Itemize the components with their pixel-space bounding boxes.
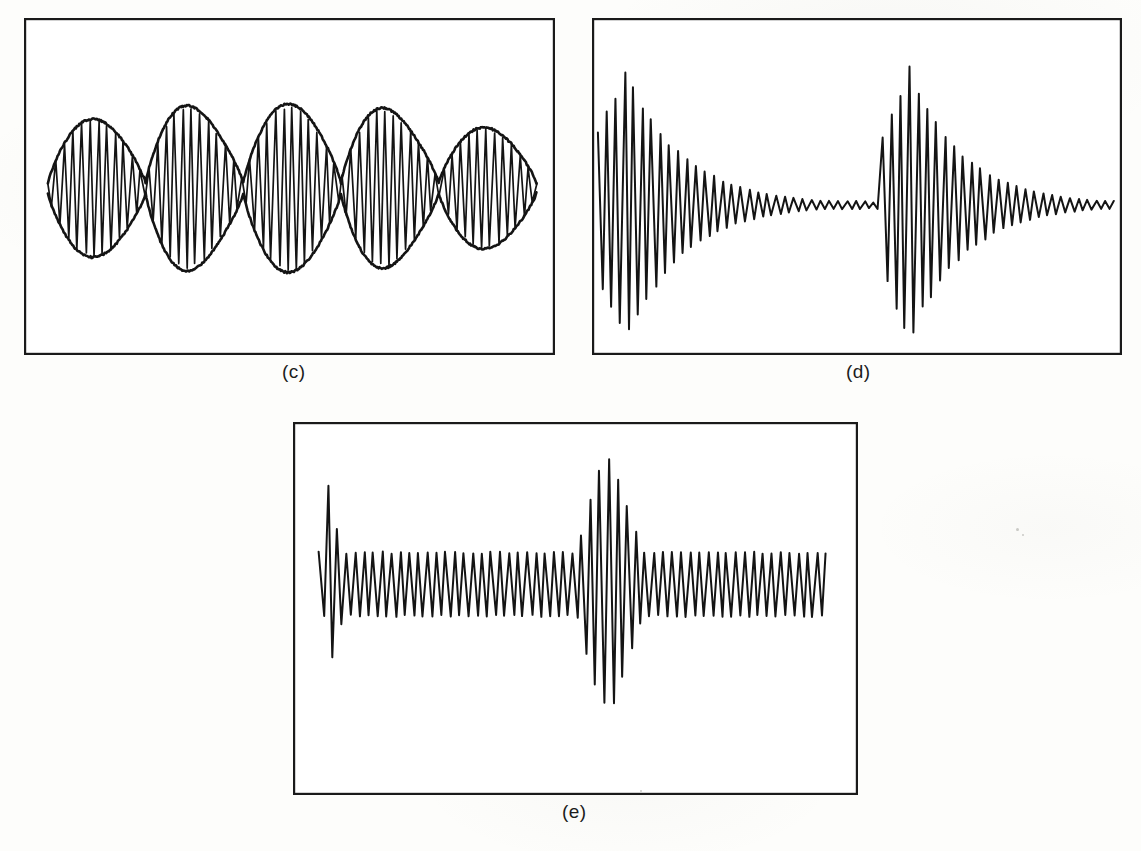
panel-d-plot	[592, 18, 1122, 355]
scan-speck	[1016, 528, 1019, 531]
panel-e	[293, 422, 858, 795]
panel-c-caption: (c)	[282, 361, 305, 383]
panel-d-frame	[593, 19, 1121, 354]
scan-speck	[640, 790, 642, 792]
panel-d	[592, 18, 1122, 355]
panel-d-caption: (d)	[846, 361, 870, 383]
panel-c	[24, 18, 555, 355]
figure-root: (c) (d) (e)	[0, 0, 1141, 851]
panel-e-plot	[293, 422, 858, 795]
panel-c-plot	[24, 18, 555, 355]
panel-e-caption: (e)	[562, 801, 586, 823]
scan-speck	[1022, 534, 1024, 536]
